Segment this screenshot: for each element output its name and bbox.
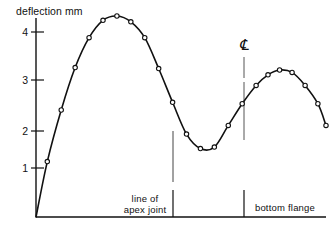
data-point — [156, 66, 160, 70]
data-point — [303, 83, 307, 87]
data-point-markers — [45, 14, 328, 164]
data-point — [170, 100, 174, 104]
y-tick-label-3: 3 — [22, 74, 28, 86]
data-point — [184, 132, 188, 136]
data-point — [101, 18, 105, 22]
data-point — [143, 36, 147, 40]
data-point — [87, 36, 91, 40]
data-point — [198, 146, 202, 150]
bottom-flange-label: bottom flange — [255, 202, 315, 213]
data-point — [240, 102, 244, 106]
chart-canvas: 1 2 3 4 deflection mm ℄ line of apex joi… — [0, 0, 334, 231]
data-point — [266, 73, 270, 77]
data-point — [290, 70, 294, 74]
data-point — [115, 14, 119, 18]
y-tick-label-4: 4 — [22, 26, 28, 38]
data-point — [226, 123, 230, 127]
y-tick-label-2: 2 — [22, 125, 28, 137]
centre-line-symbol: ℄ — [239, 36, 249, 54]
data-point — [73, 65, 77, 69]
y-axis-ticks — [31, 32, 44, 168]
apex-joint-label-line1: line of — [132, 193, 159, 204]
apex-joint-label-line2: apex joint — [124, 204, 167, 215]
data-point — [277, 68, 281, 72]
data-point — [129, 20, 133, 24]
data-point — [45, 159, 49, 163]
y-tick-label-1: 1 — [22, 162, 28, 174]
deflection-curve — [36, 16, 326, 217]
data-point — [316, 102, 320, 106]
data-point — [324, 123, 328, 127]
data-point — [59, 108, 63, 112]
y-axis-title: deflection mm — [16, 5, 83, 17]
data-point — [254, 83, 258, 87]
deflection-chart: 1 2 3 4 deflection mm ℄ line of apex joi… — [0, 0, 334, 231]
data-point — [212, 145, 216, 149]
